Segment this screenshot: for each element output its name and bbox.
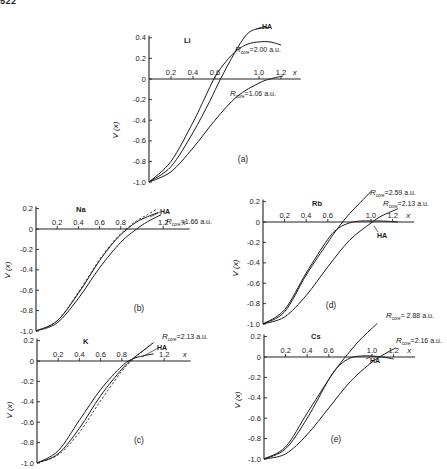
y-tick-label: -0.2 — [21, 377, 34, 386]
y-axis-label: V (x) — [3, 261, 12, 278]
y-tick-label: -1.0 — [247, 320, 260, 329]
curve-rcore — [264, 323, 377, 459]
x-tick-label: 1.0 — [366, 211, 376, 220]
element-label: Li — [184, 36, 191, 45]
y-tick-label: -0.4 — [21, 397, 34, 406]
y-tick-label: -0.4 — [20, 265, 33, 274]
x-axis-label: x — [292, 68, 298, 77]
x-tick-label: 0.6 — [210, 68, 220, 77]
curve-label-rcore: Rcore= 2.88 a.u. — [386, 311, 434, 321]
leader-line — [374, 226, 378, 232]
x-tick-label: 0.2 — [53, 350, 63, 359]
y-tick-label: -1.0 — [133, 178, 146, 187]
y-tick-label: 0.4 — [136, 33, 146, 42]
y-tick-label: -0.4 — [133, 116, 146, 125]
curve-label-rcore: Rcore=1.06 a.u. — [230, 89, 276, 99]
panel-b: 0.20-0.2-0.4-0.6-0.8-1.00.20.40.60.81.2x… — [3, 204, 212, 335]
y-tick-label: 0.2 — [250, 197, 260, 206]
y-tick-label: -0.8 — [20, 306, 33, 315]
y-tick-label: -0.6 — [21, 418, 34, 427]
panel-a: 0.40.20-0.2-0.4-0.6-0.8-1.00.20.40.61.01… — [111, 23, 301, 187]
y-tick-label: -1.0 — [21, 459, 34, 468]
y-tick-label: 0 — [30, 357, 34, 366]
y-tick-label: -0.6 — [247, 279, 260, 288]
x-tick-label: 0.4 — [188, 68, 198, 77]
x-tick-label: 0.2 — [280, 346, 290, 355]
y-tick-label: -0.6 — [20, 286, 33, 295]
x-axis-label: x — [406, 346, 412, 355]
x-tick-label: 0.6 — [95, 350, 105, 359]
panel-label: (c) — [134, 435, 144, 445]
x-tick-label: 1.2 — [276, 68, 286, 77]
panel-d: 0.20-0.2-0.4-0.6-0.8-1.00.20.40.61.01.2x… — [231, 188, 429, 329]
curve-label-rcore: Rcore=2.13 a.u. — [162, 332, 208, 342]
curve-label-rcore: Rcore=2.59 a.u. — [370, 188, 416, 198]
y-tick-label: -0.4 — [248, 393, 261, 402]
panel-c: 0.20-0.2-0.4-0.6-0.8-1.00.20.40.60.81.2x… — [5, 332, 208, 468]
x-axis-label: x — [182, 350, 188, 359]
y-tick-label: 0 — [256, 218, 260, 227]
y-tick-label: -1.0 — [248, 455, 261, 464]
y-tick-label: -0.8 — [21, 438, 34, 447]
x-tick-label: 0.8 — [116, 218, 126, 227]
curve-rcore — [36, 215, 161, 331]
y-tick-label: 0 — [29, 225, 33, 234]
y-tick-label: 0.2 — [24, 336, 34, 345]
y-axis-label: V (x) — [111, 121, 120, 138]
curve-label-rcore: Rcore=2.13 a.u. — [383, 199, 429, 209]
y-tick-label: 0.2 — [251, 332, 261, 341]
y-tick-label: 0.2 — [23, 204, 33, 213]
panel-label: (d) — [326, 300, 337, 310]
x-tick-label: 0.2 — [279, 211, 289, 220]
x-tick-label: 0.4 — [74, 350, 84, 359]
x-tick-label: 0.6 — [94, 218, 104, 227]
panel-e: 0.20-0.2-0.4-0.6-0.8-1.00.20.40.61.01.2x… — [233, 311, 442, 464]
x-axis-label: x — [405, 211, 411, 220]
element-label: K — [83, 337, 89, 346]
panel-label: (e) — [331, 434, 342, 444]
y-tick-label: -0.2 — [133, 95, 146, 104]
y-tick-label: -1.0 — [20, 327, 33, 336]
y-tick-label: -0.2 — [248, 373, 261, 382]
x-tick-label: 0.6 — [324, 346, 334, 355]
curve-rcore — [149, 42, 281, 182]
x-tick-label: 0.2 — [52, 218, 62, 227]
x-tick-label: 0.4 — [302, 346, 312, 355]
panel-label: (a) — [238, 154, 249, 164]
y-axis-label: V (x) — [231, 259, 240, 276]
y-tick-label: -0.8 — [133, 157, 146, 166]
y-tick-label: -0.2 — [247, 238, 260, 247]
curve-label-rcore: Rcore=1.66 a.u. — [166, 217, 212, 227]
y-tick-label: -0.4 — [247, 258, 260, 267]
x-tick-label: 0.8 — [117, 350, 127, 359]
x-tick-label: 0.4 — [301, 211, 311, 220]
x-tick-label: 1.0 — [367, 346, 377, 355]
element-label: Cs — [311, 332, 321, 341]
y-tick-label: 0 — [257, 353, 261, 362]
y-tick-label: -0.8 — [248, 434, 261, 443]
pseudopotential-figure: 0.40.20-0.2-0.4-0.6-0.8-1.00.20.40.61.01… — [0, 0, 447, 469]
x-tick-label: 1.0 — [254, 68, 264, 77]
y-axis-label: V (x) — [5, 401, 14, 418]
panel-label: (b) — [134, 303, 145, 313]
curve-rcore — [37, 344, 152, 463]
curve-label-rcore: Rcore=2.16 a.u. — [396, 336, 442, 346]
x-tick-label: 0.2 — [166, 68, 176, 77]
y-tick-label: -0.6 — [133, 136, 146, 145]
y-tick-label: 0.2 — [136, 54, 146, 63]
curve-label-ha: HA — [157, 344, 167, 351]
x-tick-label: 0.6 — [323, 211, 333, 220]
y-tick-label: -0.8 — [247, 299, 260, 308]
y-tick-label: -0.6 — [248, 414, 261, 423]
x-tick-label: 1.2 — [159, 350, 169, 359]
y-tick-label: -0.2 — [20, 245, 33, 254]
element-label: Na — [76, 205, 86, 214]
curve-label-ha: HA — [377, 232, 387, 239]
y-axis-label: V (x) — [233, 391, 242, 408]
y-tick-label: 0 — [142, 75, 146, 84]
x-tick-label: 0.4 — [73, 218, 83, 227]
element-label: Rb — [312, 199, 322, 208]
curve-label-ha: HA — [160, 208, 170, 215]
curve-label-ha: HA — [262, 23, 272, 30]
